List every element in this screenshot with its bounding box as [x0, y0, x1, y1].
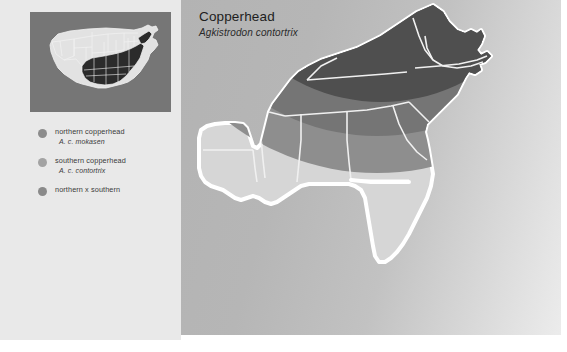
legend-item-southern-copperhead: southern copperhead A. c. contortrix — [38, 156, 178, 176]
legend-scientific-northern: A. c. mokasen — [55, 137, 178, 147]
legend-label-hybrid: northern x southern — [55, 185, 178, 195]
legend-color-swatch-southern — [38, 158, 47, 167]
coastal-outlines — [351, 180, 409, 182]
page-subtitle: Agkistrodon contortrix — [199, 26, 298, 39]
united-states-locator-map-svg — [30, 12, 171, 112]
legend-color-swatch-hybrid — [38, 187, 47, 196]
right-panel: Copperhead Agkistrodon contortrix — [181, 0, 561, 335]
legend-scientific-southern: A. c. contortrix — [55, 166, 178, 176]
page-title: Copperhead — [199, 9, 298, 25]
left-panel: northern copperhead A. c. mokasen southe… — [0, 0, 181, 340]
legend: northern copperhead A. c. mokasen southe… — [38, 127, 178, 208]
inset-map-panel — [30, 12, 171, 112]
legend-item-northern-x-southern: northern x southern — [38, 185, 178, 199]
legend-item-northern-copperhead: northern copperhead A. c. mokasen — [38, 127, 178, 147]
legend-label-southern: southern copperhead — [55, 156, 178, 166]
title-block: Copperhead Agkistrodon contortrix — [199, 9, 298, 39]
legend-color-swatch-northern — [38, 129, 47, 138]
legend-label-northern: northern copperhead — [55, 127, 178, 137]
infographic-page: northern copperhead A. c. mokasen southe… — [0, 0, 567, 352]
southeastern-united-states-range-map-svg — [181, 0, 561, 335]
